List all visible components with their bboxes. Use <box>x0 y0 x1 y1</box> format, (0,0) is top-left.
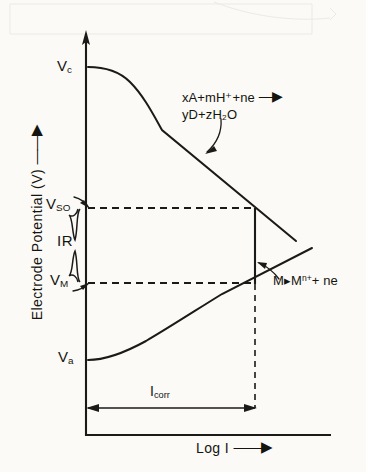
anodic-polarization-curve <box>88 248 312 360</box>
paper-bleed-through <box>10 2 336 34</box>
x-axis-title-arrow: ——▶ <box>233 439 272 455</box>
cathodic-annotation-leader <box>205 119 221 154</box>
cathodic-reaction-line-2: yD+zH₂O <box>182 106 282 123</box>
label-vc: Vc <box>57 58 72 76</box>
label-icorr: Icorr <box>150 384 170 401</box>
figure-canvas <box>0 0 366 472</box>
anodic-reaction-arrow: ▸ <box>284 273 291 288</box>
label-vm: VM <box>50 272 68 290</box>
y-axis-title: Electrode Potential (V) ——▶ <box>29 123 45 323</box>
label-va: Va <box>58 349 74 367</box>
evans-polarization-figure: Vc VSO IR VM Va Icorr Log I ——▶ xA+mH⁺+n… <box>0 0 366 472</box>
cathodic-reaction-annotation: xA+mH⁺+ne —▶ yD+zH₂O <box>182 88 282 124</box>
label-vso: VSO <box>46 196 70 214</box>
y-axis-title-arrow: ——▶ <box>28 125 44 164</box>
icorr-arrow-left <box>86 404 99 412</box>
label-ir-drop: IR <box>57 233 73 249</box>
icorr-span-arrow <box>86 404 257 412</box>
anodic-reaction-annotation: M▸Mn++ ne <box>273 274 338 288</box>
cathodic-reaction-line-1: xA+mH⁺+ne —▶ <box>182 88 282 106</box>
cathodic-reaction-arrow: —▶ <box>259 87 282 105</box>
x-axis-title: Log I ——▶ <box>196 440 272 456</box>
